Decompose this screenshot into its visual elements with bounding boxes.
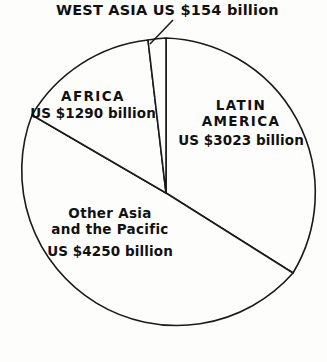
callout-west-asia-value: US $154 billion [153, 2, 279, 18]
slice-label-latin-america: LATIN AMERICA US $3023 billion [168, 97, 314, 148]
slice-label-other-asia-pacific: Other Asia and the Pacific US $4250 bill… [26, 205, 194, 259]
slice-label-other-asia-value: US $4250 billion [26, 243, 194, 259]
pie-chart-graphic [0, 0, 327, 362]
slice-label-latin-america-value: US $3023 billion [168, 132, 314, 148]
slice-label-other-asia-name-line1: Other Asia [26, 205, 194, 221]
slice-label-africa-value: US $1290 billion [28, 105, 158, 121]
slice-label-africa: AFRICA US $1290 billion [28, 88, 158, 122]
callout-west-asia: WEST ASIA US $154 billion [56, 2, 279, 20]
callout-west-asia-name: WEST ASIA [56, 2, 147, 18]
slice-label-other-asia-name-line2: and the Pacific [26, 221, 194, 237]
slice-label-africa-name: AFRICA [61, 88, 125, 104]
pie-chart-figure: WEST ASIA US $154 billion AFRICA US $129… [0, 0, 327, 362]
slice-label-latin-america-name-line1: LATIN [168, 97, 314, 113]
slice-label-latin-america-name-line2: AMERICA [168, 113, 314, 129]
